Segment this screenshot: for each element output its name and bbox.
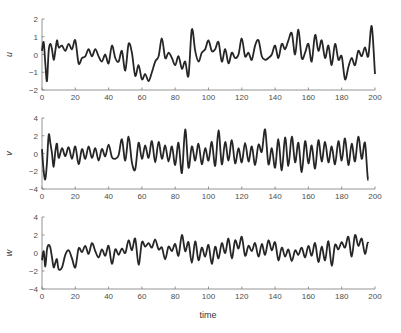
series-line-v bbox=[42, 129, 368, 180]
x-tick-label: 160 bbox=[302, 93, 316, 102]
y-tick-label: −2 bbox=[29, 86, 39, 95]
x-tick-label: 20 bbox=[71, 192, 80, 201]
x-tick-label: 100 bbox=[202, 192, 216, 201]
y-tick-label: 0 bbox=[34, 249, 39, 258]
x-tick-label: 0 bbox=[40, 93, 45, 102]
axes-frame bbox=[42, 217, 375, 289]
y-tick-label: −2 bbox=[29, 167, 39, 176]
axes-frame bbox=[42, 118, 375, 189]
x-tick-label: 120 bbox=[235, 292, 249, 301]
y-tick-label: 0 bbox=[34, 51, 39, 60]
x-tick-label: 100 bbox=[202, 292, 216, 301]
x-tick-label: 140 bbox=[268, 192, 282, 201]
x-tick-label: 120 bbox=[235, 192, 249, 201]
series-line-u bbox=[42, 26, 375, 81]
panel-u: 210−1−2020406080100120140160180200u bbox=[4, 15, 382, 102]
x-tick-label: 40 bbox=[104, 292, 113, 301]
x-tick-label: 60 bbox=[137, 192, 146, 201]
x-tick-label: 160 bbox=[302, 192, 316, 201]
y-tick-label: 4 bbox=[34, 114, 39, 123]
y-tick-label: −1 bbox=[29, 68, 39, 77]
axes-frame bbox=[42, 19, 375, 90]
y-tick-label: 4 bbox=[34, 213, 39, 222]
x-tick-label: 60 bbox=[137, 93, 146, 102]
y-tick-label: −4 bbox=[29, 185, 39, 194]
x-tick-label: 180 bbox=[335, 192, 349, 201]
y-tick-label: 2 bbox=[34, 132, 39, 141]
panel-v: 420−2−4020406080100120140160180200v bbox=[4, 114, 382, 201]
x-tick-label: 80 bbox=[171, 93, 180, 102]
series-line-w bbox=[42, 235, 368, 270]
x-tick-label: 160 bbox=[302, 292, 316, 301]
x-tick-label: 100 bbox=[202, 93, 216, 102]
x-tick-label: 80 bbox=[171, 292, 180, 301]
y-axis-label: v bbox=[4, 151, 14, 156]
x-tick-label: 80 bbox=[171, 192, 180, 201]
x-tick-label: 20 bbox=[71, 93, 80, 102]
y-tick-label: 2 bbox=[34, 231, 39, 240]
y-tick-label: 0 bbox=[34, 150, 39, 159]
y-tick-label: −2 bbox=[29, 267, 39, 276]
x-tick-label: 200 bbox=[368, 292, 382, 301]
x-tick-label: 180 bbox=[335, 292, 349, 301]
panel-w: 420−2−4020406080100120140160180200w bbox=[4, 213, 382, 301]
x-tick-label: 20 bbox=[71, 292, 80, 301]
x-tick-label: 40 bbox=[104, 93, 113, 102]
y-axis-label: w bbox=[4, 249, 14, 256]
y-tick-label: −4 bbox=[29, 285, 39, 294]
x-tick-label: 180 bbox=[335, 93, 349, 102]
x-tick-label: 200 bbox=[368, 192, 382, 201]
x-axis-label: time bbox=[199, 310, 216, 320]
figure: 210−1−2020406080100120140160180200u 420−… bbox=[0, 0, 401, 333]
y-tick-label: 1 bbox=[34, 33, 39, 42]
x-tick-label: 60 bbox=[137, 292, 146, 301]
x-tick-label: 40 bbox=[104, 192, 113, 201]
x-tick-label: 140 bbox=[268, 93, 282, 102]
x-tick-label: 140 bbox=[268, 292, 282, 301]
x-tick-label: 0 bbox=[40, 192, 45, 201]
x-tick-label: 200 bbox=[368, 93, 382, 102]
y-tick-label: 2 bbox=[34, 15, 39, 24]
y-axis-label: u bbox=[4, 52, 14, 57]
x-tick-label: 120 bbox=[235, 93, 249, 102]
x-tick-label: 0 bbox=[40, 292, 45, 301]
